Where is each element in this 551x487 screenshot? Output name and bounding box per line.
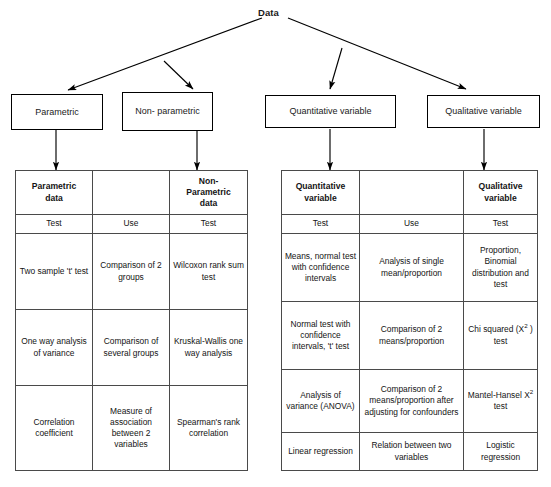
subheader-cell-test: Test bbox=[16, 215, 93, 234]
table-row: Linear regression Relation between two v… bbox=[282, 433, 538, 471]
header-line: Non- bbox=[199, 176, 219, 186]
node-nonparametric[interactable]: Non- parametric bbox=[122, 92, 213, 131]
cell-use: Analysis of single mean/proportion bbox=[360, 234, 464, 302]
table-header-row: Quantitative variable Qualitative variab… bbox=[282, 171, 538, 215]
header-cell-blank bbox=[93, 171, 170, 215]
subheader-cell-test: Test bbox=[170, 215, 248, 234]
table-row: Correlation coefficient Measure of assoc… bbox=[16, 386, 248, 471]
cell-test2: Logistic regression bbox=[464, 433, 538, 471]
header-line: data bbox=[45, 193, 63, 203]
cell-test: Two sample 't' test bbox=[16, 234, 93, 310]
cell-test2: Mantel-Hansel X2 test bbox=[464, 370, 538, 433]
subheader-cell-use: Use bbox=[93, 215, 170, 234]
cell-use: Measure of association between 2 variabl… bbox=[93, 386, 170, 471]
node-quantitative-variable[interactable]: Quantitative variable bbox=[265, 95, 396, 128]
arrow-data-to-nonparametric bbox=[164, 61, 193, 89]
cell-test2: Chi squared (X2 ) test bbox=[464, 302, 538, 370]
subheader-cell-test: Test bbox=[282, 215, 360, 234]
table-subheader-row: Test Use Test bbox=[282, 215, 538, 234]
table-header-row: Parametric data Non- Parametric data bbox=[16, 171, 248, 215]
cell-test: Means, normal test with confidence inter… bbox=[282, 234, 360, 302]
arrow-data-to-qualitative bbox=[288, 18, 466, 89]
arrow-data-to-quantitative bbox=[330, 48, 342, 89]
cell-test: One way analysis of variance bbox=[16, 310, 93, 386]
header-line: Quantitative bbox=[296, 181, 346, 191]
cell-use: Comparison of 2 groups bbox=[93, 234, 170, 310]
header-cell-quantitative-variable: Quantitative variable bbox=[282, 171, 360, 215]
node-nonparametric-label: Non- parametric bbox=[135, 106, 200, 116]
table-row: Two sample 't' test Comparison of 2 grou… bbox=[16, 234, 248, 310]
subheader-cell-test: Test bbox=[464, 215, 538, 234]
arrow-data-to-parametric bbox=[68, 18, 262, 90]
header-cell-qualitative-variable: Qualitative variable bbox=[464, 171, 538, 215]
table-row: One way analysis of variance Comparison … bbox=[16, 310, 248, 386]
table-subheader-row: Test Use Test bbox=[16, 215, 248, 234]
statistics-tests-flowchart: Data Parametric Non- parametric Quantita… bbox=[0, 0, 551, 487]
cell-use: Comparison of several groups bbox=[93, 310, 170, 386]
cell-test: Analysis of variance (ANOVA) bbox=[282, 370, 360, 433]
node-qualitative-variable[interactable]: Qualitative variable bbox=[427, 95, 540, 128]
header-line: Parametric bbox=[32, 181, 76, 191]
node-quantitative-variable-label: Quantitative variable bbox=[289, 106, 371, 116]
cell-use: Comparison of 2 means/proportion bbox=[360, 302, 464, 370]
cell-test: Normal test with confidence intervals, '… bbox=[282, 302, 360, 370]
table-row: Normal test with confidence intervals, '… bbox=[282, 302, 538, 370]
cell-test: Correlation coefficient bbox=[16, 386, 93, 471]
variable-tests-table: Quantitative variable Qualitative variab… bbox=[281, 170, 538, 471]
header-cell-parametric-data: Parametric data bbox=[16, 171, 93, 215]
cell-use: Relation between two variables bbox=[360, 433, 464, 471]
header-cell-nonparametric-data: Non- Parametric data bbox=[170, 171, 248, 215]
parametric-tests-table: Parametric data Non- Parametric data Tes… bbox=[15, 170, 248, 471]
header-cell-blank bbox=[360, 171, 464, 215]
node-parametric-label: Parametric bbox=[35, 107, 79, 117]
cell-use: Comparison of 2 means/proportion after a… bbox=[360, 370, 464, 433]
cell-test2: Proportion, Binomial distribution and te… bbox=[464, 234, 538, 302]
header-line: variable bbox=[484, 193, 517, 203]
cell-test2: Spearman's rank correlation bbox=[170, 386, 248, 471]
table-row: Analysis of variance (ANOVA) Comparison … bbox=[282, 370, 538, 433]
root-node-data: Data bbox=[258, 7, 279, 18]
node-qualitative-variable-label: Qualitative variable bbox=[445, 106, 522, 116]
header-line: Qualitative bbox=[479, 181, 523, 191]
header-line: Parametric bbox=[186, 187, 230, 197]
node-parametric[interactable]: Parametric bbox=[11, 94, 103, 130]
cell-test2: Kruskal-Wallis one way analysis bbox=[170, 310, 248, 386]
header-line: data bbox=[200, 198, 218, 208]
cell-test2: Wilcoxon rank sum test bbox=[170, 234, 248, 310]
cell-test: Linear regression bbox=[282, 433, 360, 471]
header-line: variable bbox=[304, 193, 337, 203]
subheader-cell-use: Use bbox=[360, 215, 464, 234]
table-row: Means, normal test with confidence inter… bbox=[282, 234, 538, 302]
